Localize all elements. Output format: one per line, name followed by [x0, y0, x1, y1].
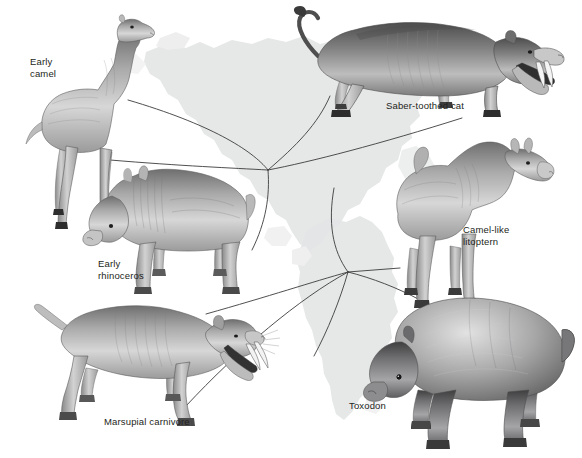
label-toxodon: Toxodon [349, 400, 386, 412]
label-camel-like-litoptern: Camel-like litoptern [463, 224, 509, 247]
label-marsupial-carnivore: Marsupial carnivore [104, 416, 190, 428]
animal-toxodon [363, 298, 574, 449]
animal-marsupial-carnivore [34, 304, 280, 426]
label-early-camel: Early camel [30, 56, 56, 79]
figure-canvas: Early camel Saber-toothed cat Early rhin… [0, 0, 582, 458]
animal-camel-like-litoptern [397, 138, 554, 308]
label-early-rhinoceros: Early rhinoceros [98, 258, 144, 281]
label-saber-toothed-cat: Saber-toothed cat [386, 100, 464, 112]
